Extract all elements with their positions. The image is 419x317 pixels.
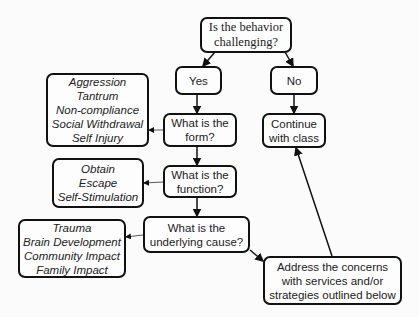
- no-box: No: [270, 66, 318, 95]
- form-question-box: What is the form?: [163, 113, 237, 147]
- continue-line2: with class: [269, 131, 319, 145]
- cause-item: Community Impact: [24, 249, 120, 263]
- form-item: Self Injury: [72, 131, 123, 145]
- behavior-functions-box: Obtain Escape Self-Stimulation: [52, 158, 144, 208]
- cause-item: Family Impact: [36, 263, 108, 277]
- function-item: Self-Stimulation: [58, 190, 139, 204]
- function-item: Obtain: [81, 162, 115, 176]
- cause-item: Trauma: [53, 221, 92, 235]
- function-question-line1: What is the: [171, 168, 229, 182]
- continue-line1: Continue: [271, 117, 317, 131]
- yes-label: Yes: [189, 74, 208, 88]
- behavior-forms-box: Aggression Tantrum Non-compliance Social…: [46, 73, 149, 147]
- no-label: No: [287, 74, 302, 88]
- cause-question-box: What is the underlying cause?: [143, 216, 250, 253]
- form-item: Non-compliance: [56, 103, 139, 117]
- root-question-line2: challenging?: [214, 35, 278, 50]
- root-question-line1: Is the behavior: [209, 20, 283, 35]
- cause-question-line2: underlying cause?: [150, 235, 243, 249]
- yes-box: Yes: [175, 66, 222, 95]
- address-line2: with services and/or: [282, 274, 384, 288]
- address-line1: Address the concerns: [277, 260, 388, 274]
- form-question-line1: What is the: [171, 116, 229, 130]
- function-item: Escape: [79, 176, 117, 190]
- form-item: Social Withdrawal: [52, 117, 143, 131]
- continue-class-box: Continue with class: [262, 113, 326, 148]
- cause-question-line1: What is the: [168, 221, 226, 235]
- address-concerns-box: Address the concerns with services and/o…: [263, 256, 402, 305]
- function-question-box: What is the function?: [163, 165, 237, 198]
- function-question-line2: function?: [177, 182, 224, 196]
- underlying-causes-box: Trauma Brain Development Community Impac…: [18, 219, 126, 278]
- root-question-box: Is the behavior challenging?: [200, 17, 292, 53]
- cause-item: Brain Development: [23, 235, 121, 249]
- address-line3: strategies outlined below: [269, 288, 396, 302]
- form-question-line2: form?: [185, 130, 214, 144]
- form-item: Aggression: [69, 75, 127, 89]
- form-item: Tantrum: [77, 89, 119, 103]
